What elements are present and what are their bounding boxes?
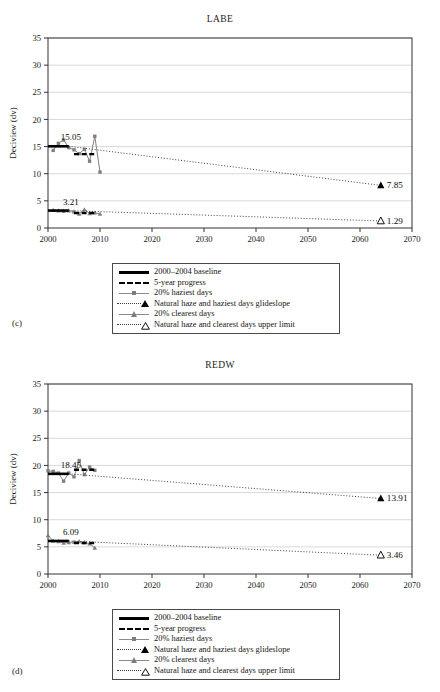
svg-text:20: 20	[32, 461, 41, 471]
legend-label-haziest-glideslope: Natural haze and haziest days glideslope	[154, 645, 290, 656]
legend-label-progress: 5-year progress	[154, 278, 206, 289]
svg-text:2040: 2040	[247, 234, 264, 244]
svg-text:2050: 2050	[299, 580, 316, 590]
legend-label-clearest-limit: Natural haze and clearest days upper lim…	[154, 666, 295, 677]
legend-label-haziest: 20% haziest days	[154, 288, 212, 299]
legend-item-haziest-glideslope: Natural haze and haziest days glideslope	[117, 645, 335, 656]
svg-text:7.85: 7.85	[387, 180, 403, 190]
svg-text:1.29: 1.29	[387, 216, 403, 226]
svg-text:2030: 2030	[195, 580, 212, 590]
legend-key-solid-line-icon	[117, 267, 151, 277]
svg-text:2040: 2040	[247, 580, 264, 590]
svg-text:2060: 2060	[351, 234, 368, 244]
svg-text:10: 10	[32, 169, 41, 179]
chart-svg-labe: 0510152025303520002010202020302040205020…	[0, 0, 440, 250]
legend-item-progress: 5-year progress	[117, 624, 335, 635]
legend-label-progress: 5-year progress	[154, 624, 206, 635]
panel-letter-d: (d)	[12, 666, 23, 676]
legend-item-haziest: 20% haziest days	[117, 288, 335, 299]
chart-svg-redw: 0510152025303520002010202020302040205020…	[0, 346, 440, 596]
legend-key-filled-triangle-icon	[117, 299, 151, 309]
legend-item-baseline: 2000–2004 baseline	[117, 267, 335, 278]
legend-key-square-marker-icon	[117, 288, 151, 298]
svg-text:2020: 2020	[143, 234, 160, 244]
svg-text:2000: 2000	[39, 580, 56, 590]
legend-label-clearest-limit: Natural haze and clearest days upper lim…	[154, 320, 295, 331]
svg-text:10: 10	[32, 515, 41, 525]
svg-text:2060: 2060	[351, 580, 368, 590]
plot-area-labe: 0510152025303520002010202020302040205020…	[0, 0, 440, 250]
legend-item-haziest-glideslope: Natural haze and haziest days glideslope	[117, 299, 335, 310]
svg-text:13.91: 13.91	[387, 493, 408, 503]
svg-text:3.46: 3.46	[387, 550, 403, 560]
legend-label-haziest: 20% haziest days	[154, 634, 212, 645]
svg-text:30: 30	[32, 406, 41, 416]
svg-text:0: 0	[37, 223, 41, 233]
legend-key-open-triangle-icon	[117, 666, 151, 676]
legend-item-clearest: 20% clearest days	[117, 655, 335, 666]
legend-key-solid-line-icon	[117, 613, 151, 623]
legend-labe: 2000–2004 baseline 5-year progress 20% h…	[112, 263, 340, 334]
figure-panel-labe: LABE 05101520253035200020102020203020402…	[0, 0, 440, 346]
panel-letter-c: (c)	[12, 318, 22, 328]
svg-text:2070: 2070	[403, 580, 420, 590]
legend-label-clearest: 20% clearest days	[154, 655, 214, 666]
figure-panel-redw: REDW 05101520253035200020102020203020402…	[0, 346, 440, 692]
svg-text:20: 20	[32, 115, 41, 125]
svg-text:35: 35	[32, 33, 41, 43]
legend-item-clearest-limit: Natural haze and clearest days upper lim…	[117, 666, 335, 677]
svg-text:2020: 2020	[143, 580, 160, 590]
svg-text:25: 25	[32, 87, 41, 97]
svg-text:6.09: 6.09	[63, 527, 79, 537]
svg-text:0: 0	[37, 569, 41, 579]
svg-text:2000: 2000	[39, 234, 56, 244]
legend-item-haziest: 20% haziest days	[117, 634, 335, 645]
svg-text:5: 5	[37, 542, 41, 552]
legend-key-square-marker-icon	[117, 634, 151, 644]
svg-text:25: 25	[32, 433, 41, 443]
svg-text:15: 15	[32, 488, 41, 498]
legend-key-triangle-marker-icon	[117, 309, 151, 319]
svg-text:2010: 2010	[91, 234, 108, 244]
legend-key-dashed-line-icon	[117, 278, 151, 288]
legend-item-clearest: 20% clearest days	[117, 309, 335, 320]
legend-key-triangle-marker-icon	[117, 655, 151, 665]
svg-text:5: 5	[37, 196, 41, 206]
svg-text:Deciview (dv): Deciview (dv)	[8, 107, 18, 159]
legend-item-progress: 5-year progress	[117, 278, 335, 289]
svg-text:30: 30	[32, 60, 41, 70]
svg-text:Deciview (dv): Deciview (dv)	[8, 453, 18, 505]
svg-text:3.21: 3.21	[63, 197, 79, 207]
legend-item-clearest-limit: Natural haze and clearest days upper lim…	[117, 320, 335, 331]
svg-text:15: 15	[32, 142, 41, 152]
svg-text:18.45: 18.45	[61, 460, 82, 470]
legend-key-open-triangle-icon	[117, 320, 151, 330]
legend-label-baseline: 2000–2004 baseline	[154, 613, 221, 624]
legend-redw: 2000–2004 baseline 5-year progress 20% h…	[112, 609, 340, 680]
legend-label-clearest: 20% clearest days	[154, 309, 214, 320]
svg-text:2070: 2070	[403, 234, 420, 244]
svg-text:2010: 2010	[91, 580, 108, 590]
legend-label-baseline: 2000–2004 baseline	[154, 267, 221, 278]
legend-label-haziest-glideslope: Natural haze and haziest days glideslope	[154, 299, 290, 310]
svg-text:2050: 2050	[299, 234, 316, 244]
legend-key-filled-triangle-icon	[117, 645, 151, 655]
svg-text:35: 35	[32, 379, 41, 389]
plot-area-redw: 0510152025303520002010202020302040205020…	[0, 346, 440, 596]
legend-item-baseline: 2000–2004 baseline	[117, 613, 335, 624]
legend-key-dashed-line-icon	[117, 624, 151, 634]
svg-text:15.05: 15.05	[61, 132, 82, 142]
svg-text:2030: 2030	[195, 234, 212, 244]
